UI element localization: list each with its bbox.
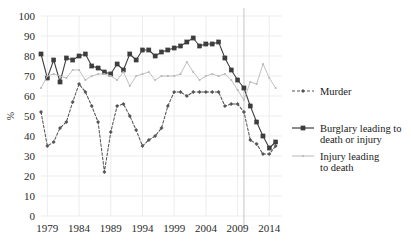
- data-point: [90, 64, 94, 68]
- legend-label-burglary-line2: death or injury: [320, 134, 383, 145]
- data-point: [243, 99, 245, 101]
- data-point: [78, 69, 80, 71]
- y-tick-label: 90: [24, 30, 36, 42]
- legend-label-injury: Injury leading: [320, 151, 380, 162]
- data-point: [217, 75, 219, 77]
- data-point: [52, 58, 56, 62]
- data-point: [141, 73, 143, 75]
- y-tick-label: 20: [24, 170, 36, 182]
- legend-label-burglary: Burglary leading to: [320, 123, 401, 134]
- y-tick-label: 50: [24, 110, 36, 122]
- data-point: [267, 146, 271, 150]
- x-tick-label: 2009: [227, 222, 250, 234]
- data-point: [97, 73, 99, 75]
- x-tick-label: 1989: [100, 222, 123, 234]
- data-point: [237, 89, 239, 91]
- data-point: [191, 36, 195, 40]
- data-point: [262, 63, 264, 65]
- data-point: [135, 75, 137, 77]
- data-point: [77, 54, 81, 58]
- data-point: [216, 40, 220, 44]
- data-point: [261, 134, 265, 138]
- y-tick-label: 80: [24, 50, 36, 62]
- data-point: [167, 75, 169, 77]
- x-tick-label: 1984: [68, 222, 91, 234]
- data-point: [248, 104, 252, 108]
- data-point: [256, 83, 258, 85]
- legend-label-murder: Murder: [320, 86, 352, 97]
- data-point: [84, 79, 86, 81]
- y-tick-label: 60: [24, 90, 36, 102]
- line-chart: 1009080706050403020100 19791984198919941…: [0, 0, 411, 249]
- data-point: [223, 56, 227, 60]
- data-point: [186, 61, 188, 63]
- data-point: [302, 155, 304, 157]
- data-point: [224, 73, 226, 75]
- data-point: [179, 73, 181, 75]
- data-point: [166, 48, 170, 52]
- data-point: [72, 69, 74, 71]
- data-point: [148, 71, 150, 73]
- chart-figure: 1009080706050403020100 19791984198919941…: [0, 0, 411, 249]
- data-point: [39, 52, 43, 56]
- data-point: [268, 77, 270, 79]
- legend-label-injury-line2: to death: [320, 162, 354, 173]
- data-point: [59, 75, 61, 77]
- data-point: [192, 71, 194, 73]
- data-point: [65, 77, 67, 79]
- data-point: [128, 52, 132, 56]
- data-point: [160, 75, 162, 77]
- y-axis-label: %: [5, 112, 16, 120]
- data-point: [211, 73, 213, 75]
- data-point: [249, 81, 251, 83]
- y-tick-label: 0: [30, 210, 36, 222]
- y-tick-label: 70: [24, 70, 36, 82]
- data-point: [53, 73, 55, 75]
- data-point: [153, 54, 157, 58]
- data-point: [103, 73, 105, 75]
- y-tick-label: 100: [19, 10, 36, 22]
- data-point: [40, 87, 42, 89]
- x-tick-label: 2014: [258, 222, 281, 234]
- y-tick-label: 10: [24, 190, 36, 202]
- data-point: [91, 75, 93, 77]
- data-point: [301, 126, 305, 130]
- data-point: [172, 46, 176, 50]
- data-point: [83, 52, 87, 56]
- data-point: [96, 66, 100, 70]
- y-axis-title: %: [5, 112, 16, 120]
- data-point: [122, 71, 124, 73]
- data-point: [255, 120, 259, 124]
- y-tick-label: 40: [24, 130, 36, 142]
- data-point: [205, 75, 207, 77]
- data-point: [110, 75, 112, 77]
- data-point: [147, 48, 151, 52]
- data-point: [58, 80, 62, 84]
- data-point: [46, 75, 48, 77]
- data-point: [275, 87, 277, 89]
- data-point: [230, 79, 232, 81]
- data-point: [115, 62, 119, 66]
- data-point: [116, 79, 118, 81]
- data-point: [197, 44, 201, 48]
- data-point: [274, 140, 278, 144]
- data-point: [71, 58, 75, 62]
- x-tick-label: 2004: [195, 222, 218, 234]
- data-point: [229, 68, 233, 72]
- data-point: [178, 44, 182, 48]
- data-point: [204, 42, 208, 46]
- y-tick-label: 30: [24, 150, 36, 162]
- data-point: [134, 58, 138, 62]
- data-point: [173, 75, 175, 77]
- data-point: [159, 50, 163, 54]
- data-point: [129, 85, 131, 87]
- x-tick-label: 1979: [36, 222, 59, 234]
- data-point: [140, 48, 144, 52]
- data-point: [154, 79, 156, 81]
- data-point: [236, 78, 240, 82]
- x-tick-label: 1994: [131, 222, 154, 234]
- data-point: [210, 42, 214, 46]
- data-point: [198, 79, 200, 81]
- data-point: [185, 40, 189, 44]
- data-point: [242, 86, 246, 90]
